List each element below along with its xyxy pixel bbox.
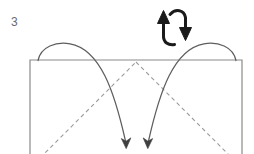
crease-lines xyxy=(30,62,242,154)
left-fold-arrow xyxy=(38,43,131,148)
diagram-canvas xyxy=(0,0,254,154)
turn-over-bottom-loop xyxy=(163,35,174,45)
turn-over-up-head xyxy=(158,11,170,24)
left-fold-arrowhead xyxy=(121,138,130,149)
left-fold-arc xyxy=(38,43,126,141)
right-fold-arc xyxy=(148,43,236,141)
paper-sheet xyxy=(30,60,242,154)
right-fold-arrow xyxy=(143,43,236,148)
origami-step-diagram: 3 xyxy=(0,0,254,154)
paper-outline xyxy=(30,60,242,154)
turn-over-top-loop xyxy=(170,11,186,23)
turn-over-down-head xyxy=(180,28,192,41)
turn-over-icon xyxy=(158,11,192,45)
left-diagonal-crease xyxy=(30,62,136,154)
right-fold-arrowhead xyxy=(143,138,152,149)
